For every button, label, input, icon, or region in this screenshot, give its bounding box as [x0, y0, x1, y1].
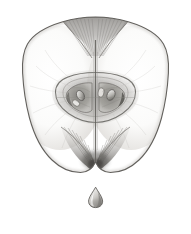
apple-illustration: Apple cut in longitudinal cross-section … [0, 0, 191, 234]
detached-seed-base-shade [90, 199, 100, 206]
apple-drawing-canvas [0, 0, 191, 234]
